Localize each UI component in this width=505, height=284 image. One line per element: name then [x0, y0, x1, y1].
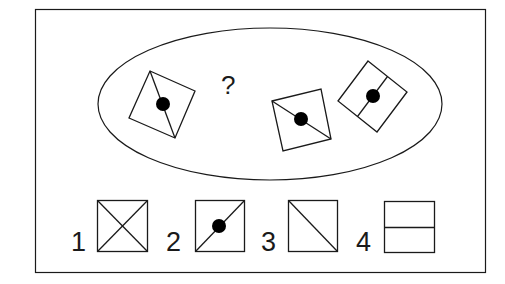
question-mark: ?: [221, 70, 235, 100]
sequence-shape-b: [272, 89, 331, 151]
option-2-figure: [196, 201, 245, 252]
option-4[interactable]: 4: [356, 202, 435, 258]
option-3-figure: [289, 201, 338, 252]
sequence-shape-a: [129, 71, 195, 138]
option-3[interactable]: 3: [261, 201, 338, 258]
option-1-label: 1: [71, 227, 86, 257]
sequence-ellipse: [98, 28, 442, 180]
option-2-label: 2: [166, 227, 181, 257]
option-2[interactable]: 2: [166, 201, 245, 258]
option-1-figure: [98, 201, 148, 252]
option-1[interactable]: 1: [71, 201, 148, 258]
option-4-figure: [385, 202, 435, 253]
dot-icon: [294, 112, 308, 126]
dot-icon: [212, 219, 226, 233]
option-4-label: 4: [356, 227, 371, 257]
dot-icon: [156, 97, 170, 111]
dot-icon: [366, 89, 380, 103]
puzzle-canvas: ? 1 2 3 4: [0, 0, 505, 284]
sequence-shape-c: [338, 61, 407, 132]
option-3-label: 3: [261, 227, 276, 257]
